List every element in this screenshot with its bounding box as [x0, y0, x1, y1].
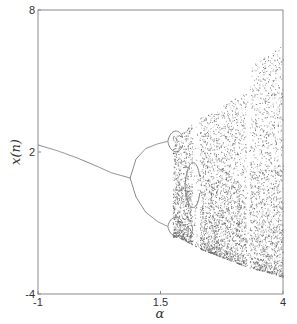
- bifurcation-chart: -11.54 -428 α x(n): [0, 0, 297, 324]
- y-axis-label: x(n): [8, 139, 23, 165]
- y-tick-label: 8: [29, 4, 35, 16]
- x-tick-label: 4: [280, 296, 286, 308]
- scatter-points: [173, 48, 284, 278]
- y-axis-ticks: -428: [25, 4, 41, 300]
- y-tick-label: 2: [29, 146, 35, 158]
- x-axis-label: α: [156, 306, 165, 321]
- y-tick-label: -4: [25, 288, 35, 300]
